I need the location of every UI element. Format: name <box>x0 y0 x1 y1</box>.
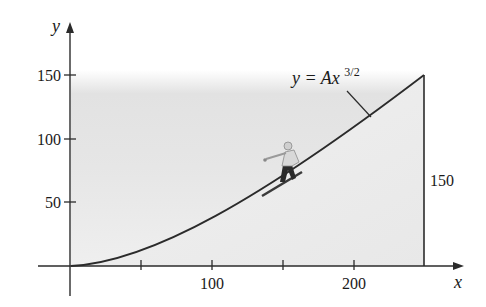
equation-main: y = Ax <box>290 68 340 88</box>
height-label-150: 150 <box>430 172 454 189</box>
x-tick-label-100: 100 <box>200 275 224 292</box>
x-tick-label-200: 200 <box>342 275 366 292</box>
y-axis-arrow-icon <box>66 22 74 33</box>
x-axis-arrow-icon <box>453 262 464 270</box>
y-tick-label-50: 50 <box>45 194 61 211</box>
x-axis-label: x <box>453 272 462 292</box>
y-tick-label-150: 150 <box>37 67 61 84</box>
y-axis-label: y <box>50 16 60 36</box>
figure: 150 100 50 100 200 y x y = Ax 3/2 150 <box>0 0 486 307</box>
equation-exponent: 3/2 <box>344 65 359 79</box>
y-tick-label-100: 100 <box>37 131 61 148</box>
